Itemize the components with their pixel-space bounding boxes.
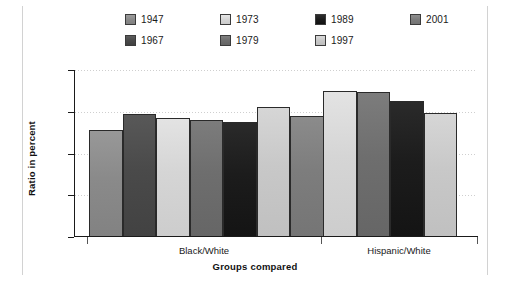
x-axis-line [74,236,478,237]
chart-legend: 1947196719731979198919972001 [125,14,445,58]
legend-item-1973[interactable]: 1973 [220,14,259,25]
bar-chart-figure: 1947196719731979198919972001 Ratio in pe… [0,0,510,281]
bar-black-white-1967 [123,114,157,237]
bar-hispanic-white-1989 [390,101,424,237]
x-axis-label: Groups compared [0,261,510,272]
legend-label: 1973 [236,14,259,25]
y-axis-tick [68,195,74,196]
legend-swatch-icon [410,14,421,25]
x-axis-category-label: Black/White [179,245,229,256]
legend-label: 2001 [426,14,449,25]
bar-black-white-1979 [190,120,224,237]
legend-label: 1997 [331,35,354,46]
legend-swatch-icon [315,35,326,46]
bar-black-white-1997 [257,107,291,237]
x-axis-tick [87,237,88,244]
legend-label: 1989 [331,14,354,25]
bar-hispanic-white-1973 [323,91,357,237]
bar-black-white-2001 [290,116,324,237]
plot-area [75,70,477,237]
legend-label: 1967 [141,35,164,46]
legend-label: 1979 [236,35,259,46]
bar-black-white-1989 [223,122,257,237]
y-axis-tick [68,70,74,71]
legend-swatch-icon [220,35,231,46]
legend-item-1979[interactable]: 1979 [220,35,259,46]
y-axis-label: Ratio in percent [26,121,37,196]
y-axis-tick [68,154,74,155]
y-axis-line [74,70,75,237]
legend-label: 1947 [141,14,164,25]
legend-item-2001[interactable]: 2001 [410,14,449,25]
x-axis-tick [321,237,322,244]
legend-item-1997[interactable]: 1997 [315,35,354,46]
y-axis-tick [68,112,74,113]
bar-black-white-1947 [89,130,123,238]
x-axis-category-label: Hispanic/White [367,245,430,256]
legend-swatch-icon [315,14,326,25]
frame-left-rule [22,6,23,275]
legend-swatch-icon [220,14,231,25]
bar-black-white-1973 [156,118,190,237]
bar-hispanic-white-1979 [357,92,391,237]
legend-swatch-icon [125,35,136,46]
frame-right-rule [487,6,488,275]
legend-item-1947[interactable]: 1947 [125,14,164,25]
x-axis-tick [477,237,478,244]
legend-item-1967[interactable]: 1967 [125,35,164,46]
legend-item-1989[interactable]: 1989 [315,14,354,25]
y-axis-tick [68,237,74,238]
bar-hispanic-white-1997 [424,113,458,237]
legend-swatch-icon [125,14,136,25]
gridline [75,70,477,71]
